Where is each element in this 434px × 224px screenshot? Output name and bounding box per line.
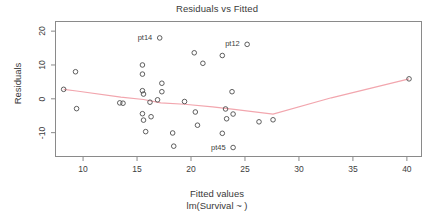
x-tick-label: 10 xyxy=(68,164,98,174)
scatter-point xyxy=(149,114,154,119)
y-tick-label: -10 xyxy=(37,120,47,146)
scatter-point xyxy=(140,63,145,68)
residuals-vs-fitted-plot: Residuals vs Fitted 10152025303540 20100… xyxy=(0,0,434,224)
scatter-point xyxy=(245,42,250,47)
x-tick-label: 15 xyxy=(122,164,152,174)
scatter-point xyxy=(224,116,229,121)
scatter-point xyxy=(171,144,176,149)
scatter-point xyxy=(220,131,225,136)
scatter-point xyxy=(170,131,175,136)
scatter-point xyxy=(220,53,225,58)
scatter-point xyxy=(231,145,236,150)
scatter-point xyxy=(201,61,206,66)
point-label-pt14: pt14 xyxy=(138,33,153,42)
axis-tick-marks xyxy=(51,31,407,161)
scatter-point xyxy=(73,69,78,74)
scatter-points xyxy=(61,36,411,150)
x-tick-label: 30 xyxy=(284,164,314,174)
x-tick-label: 40 xyxy=(392,164,422,174)
scatter-point xyxy=(141,118,146,123)
scatter-point xyxy=(230,89,235,94)
model-formula-subtitle: lm(Survival ~ ) xyxy=(0,200,434,211)
y-tick-label: 0 xyxy=(37,86,47,112)
x-axis-title: Fitted values xyxy=(0,188,434,199)
scatter-point xyxy=(192,51,197,56)
x-tick-label: 25 xyxy=(230,164,260,174)
x-tick-label: 20 xyxy=(176,164,206,174)
scatter-point xyxy=(157,36,162,41)
scatter-point xyxy=(182,99,187,104)
scatter-point xyxy=(155,98,160,103)
scatter-point xyxy=(160,81,165,86)
scatter-point xyxy=(231,112,236,117)
scatter-point xyxy=(195,123,200,128)
point-label-pt12: pt12 xyxy=(225,39,240,48)
scatter-point xyxy=(140,111,145,116)
scatter-point xyxy=(121,101,126,106)
scatter-point xyxy=(160,89,165,94)
x-tick-label: 35 xyxy=(338,164,368,174)
y-tick-label: 20 xyxy=(37,18,47,44)
scatter-point xyxy=(271,117,276,122)
y-axis-title: Residuals xyxy=(12,39,23,129)
y-tick-label: 10 xyxy=(37,52,47,78)
scatter-point xyxy=(74,106,79,111)
point-label-pt45: pt45 xyxy=(211,143,226,152)
scatter-point xyxy=(193,110,198,115)
scatter-point xyxy=(257,120,262,125)
lowess-smoother-line xyxy=(64,79,409,114)
scatter-point xyxy=(140,72,145,77)
scatter-point xyxy=(143,129,148,134)
